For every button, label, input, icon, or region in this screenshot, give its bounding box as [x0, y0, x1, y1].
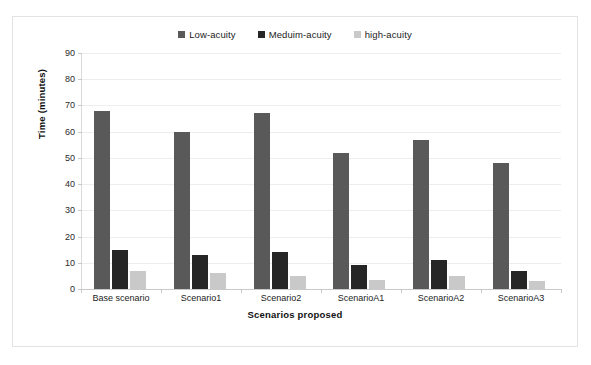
- x-axis-category-label: ScenarioA3: [481, 293, 561, 303]
- x-axis-title: Scenarios proposed: [13, 309, 577, 320]
- bar-group: [401, 53, 481, 289]
- bar[interactable]: [493, 163, 509, 289]
- legend-swatch-icon: [354, 31, 361, 38]
- legend-entry[interactable]: high-acuity: [354, 29, 412, 40]
- y-axis-title: Time (minutes): [36, 69, 47, 139]
- legend-swatch-icon: [178, 31, 185, 38]
- legend-entry[interactable]: Low-acuity: [178, 29, 235, 40]
- plot-area: 9080706050403020100: [81, 53, 561, 289]
- y-axis-tick-label: 50: [65, 153, 75, 163]
- x-axis-category-label: Base scenario: [81, 293, 161, 303]
- y-axis-tick-label: 90: [65, 48, 75, 58]
- scanned-bottom-cut-text: [0, 355, 591, 365]
- bar[interactable]: [174, 132, 190, 289]
- y-axis-tick-label: 80: [65, 74, 75, 84]
- bar[interactable]: [272, 252, 288, 289]
- bar-group: [321, 53, 401, 289]
- bar[interactable]: [333, 153, 349, 289]
- bar[interactable]: [254, 113, 270, 289]
- legend-label: high-acuity: [365, 29, 412, 40]
- plot-wrapper: 9080706050403020100 Base scenarioScenari…: [81, 53, 561, 305]
- y-axis-tick-label: 0: [70, 284, 75, 294]
- legend-swatch-icon: [258, 31, 265, 38]
- bar[interactable]: [449, 276, 465, 289]
- x-axis-category-label: Scenario1: [161, 293, 241, 303]
- bar[interactable]: [413, 140, 429, 289]
- chart-legend: Low-acuityMeduim-acuityhigh-acuity: [13, 29, 577, 40]
- bar[interactable]: [529, 281, 545, 289]
- x-axis-category-label: ScenarioA1: [321, 293, 401, 303]
- chart-frame: Low-acuityMeduim-acuityhigh-acuity Time …: [12, 16, 578, 347]
- x-axis-tick-mark: [561, 289, 562, 293]
- bar[interactable]: [130, 271, 146, 289]
- legend-entry[interactable]: Meduim-acuity: [258, 29, 332, 40]
- bar[interactable]: [431, 260, 447, 289]
- bar[interactable]: [369, 280, 385, 289]
- bar-group: [481, 53, 561, 289]
- legend-label: Meduim-acuity: [269, 29, 332, 40]
- bar-group: [82, 53, 162, 289]
- y-axis-tick-label: 40: [65, 179, 75, 189]
- bar-group: [162, 53, 242, 289]
- bar[interactable]: [210, 273, 226, 289]
- x-axis-category-label: ScenarioA2: [401, 293, 481, 303]
- y-axis-tick-label: 60: [65, 127, 75, 137]
- bar[interactable]: [351, 265, 367, 289]
- y-axis-tick-label: 30: [65, 205, 75, 215]
- x-axis-labels: Base scenarioScenario1Scenario2ScenarioA…: [81, 293, 561, 303]
- bar[interactable]: [511, 271, 527, 289]
- y-axis-tick-label: 10: [65, 258, 75, 268]
- bar[interactable]: [94, 111, 110, 289]
- bar-group: [242, 53, 322, 289]
- legend-label: Low-acuity: [189, 29, 235, 40]
- y-axis-tick-label: 20: [65, 232, 75, 242]
- y-axis-tick-label: 70: [65, 100, 75, 110]
- x-axis-category-label: Scenario2: [241, 293, 321, 303]
- bar[interactable]: [192, 255, 208, 289]
- bar[interactable]: [290, 276, 306, 289]
- bar[interactable]: [112, 250, 128, 289]
- bars-layer: [82, 53, 561, 289]
- scanned-top-cut-text: [0, 0, 591, 11]
